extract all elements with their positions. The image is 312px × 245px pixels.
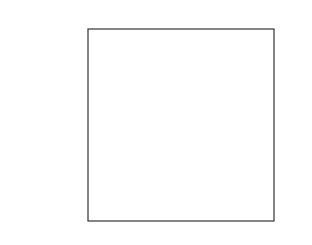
graph	[0, 0, 312, 245]
graph-frame	[88, 29, 274, 221]
